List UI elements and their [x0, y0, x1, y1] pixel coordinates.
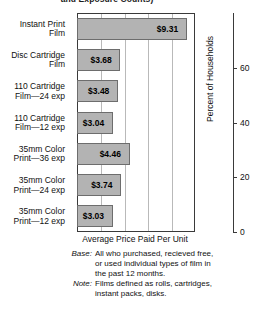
bar-value-label: $9.31	[157, 18, 178, 40]
bar-value-label: $4.46	[100, 143, 121, 165]
bar-series: $9.31$3.68$3.48$3.04$4.46$3.74$3.03	[77, 13, 195, 232]
category-label: Disc Cartridge Film	[0, 51, 65, 70]
category-label: Instant Print Film	[0, 20, 65, 39]
bar-value-label: $3.03	[83, 205, 104, 227]
bar-row: $3.04	[77, 112, 195, 134]
footnotes: Base:All who purchased, recieved free, o…	[66, 249, 256, 300]
footnote-row: Note:Films defined as rolls, cartridges,…	[66, 279, 256, 299]
right-axis-tick-label: 20	[240, 172, 249, 182]
right-axis-title: Percent of Households	[205, 36, 215, 122]
right-axis-tick	[233, 123, 237, 124]
right-axis-tick	[233, 68, 237, 69]
category-label: 35mm Color Print—24 exp	[0, 176, 65, 195]
footnote-text: Films defined as rolls, cartridges, inst…	[95, 279, 256, 299]
footnote-text: All who purchased, recieved free, or use…	[95, 249, 256, 278]
footnote-row: Base:All who purchased, recieved free, o…	[66, 249, 256, 278]
x-axis-title: Average Price Paid Per Unit	[60, 234, 210, 244]
right-axis-tick	[233, 177, 237, 178]
category-label: 110 Cartridge Film—12 exp	[0, 114, 65, 133]
bar-value-label: $3.04	[83, 112, 104, 134]
bar-row: $3.48	[77, 80, 195, 102]
bar-row: $4.46	[77, 143, 195, 165]
right-axis-tick	[233, 232, 237, 233]
bar-row: $3.68	[77, 49, 195, 71]
right-axis-tick-label: 40	[240, 118, 249, 128]
right-axis-tick-label: 60	[240, 63, 249, 73]
bar-value-label: $3.68	[90, 49, 111, 71]
bar-row: $9.31	[77, 18, 195, 40]
category-label: 35mm Color Print—12 exp	[0, 207, 65, 226]
bar-row: $3.74	[77, 174, 195, 196]
category-label: 35mm Color Print—36 exp	[0, 145, 65, 164]
footnote-key: Note:	[66, 279, 95, 299]
right-axis-tick-label: 0	[240, 227, 245, 237]
bar-value-label: $3.48	[88, 80, 109, 102]
footnote-key: Base:	[66, 249, 95, 278]
bar-row: $3.03	[77, 205, 195, 227]
bar-value-label: $3.74	[91, 174, 112, 196]
category-label: 110 Cartridge Film—24 exp	[0, 82, 65, 101]
